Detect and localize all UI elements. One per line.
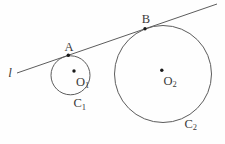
- center-o2-dot: [160, 69, 163, 72]
- circle-c2-label: C2: [185, 117, 198, 133]
- center-o1-base: O: [76, 75, 85, 89]
- line-label: l: [8, 65, 12, 80]
- tangent-line: [17, 4, 217, 73]
- center-o2-subscript: 2: [173, 79, 177, 89]
- tangent-circles-diagram: l A B O1 O2 C1 C2: [0, 0, 225, 144]
- point-a-label: A: [64, 40, 73, 54]
- center-o1-dot: [72, 69, 75, 72]
- point-a-dot: [67, 54, 70, 57]
- circle-c2-subscript: 2: [193, 122, 197, 132]
- center-o1-label: O1: [76, 75, 89, 91]
- point-b-label: B: [142, 12, 150, 26]
- geometry-figure: l A B O1 O2 C1 C2: [0, 0, 225, 144]
- center-o2-base: O: [164, 74, 173, 88]
- point-b-dot: [143, 27, 146, 30]
- circle-c1-base: C: [74, 96, 82, 110]
- circle-c1-subscript: 1: [82, 102, 86, 112]
- circle-c1-label: C1: [74, 96, 87, 112]
- center-o2-label: O2: [164, 74, 177, 90]
- circle-c2-base: C: [185, 117, 193, 131]
- center-o1-subscript: 1: [85, 80, 89, 90]
